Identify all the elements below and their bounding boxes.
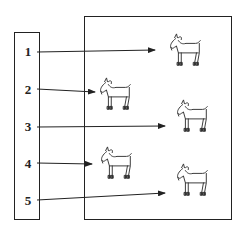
goat-icon <box>97 76 135 114</box>
arrow-1 <box>37 50 155 52</box>
arrow-4 <box>37 163 92 164</box>
goat-icon <box>174 162 212 200</box>
goat-icon <box>167 32 205 70</box>
arrow-3 <box>37 126 165 127</box>
goat-icon <box>98 145 136 183</box>
arrow-5 <box>37 193 165 200</box>
goat-icon <box>174 98 212 136</box>
arrow-2 <box>37 89 95 92</box>
